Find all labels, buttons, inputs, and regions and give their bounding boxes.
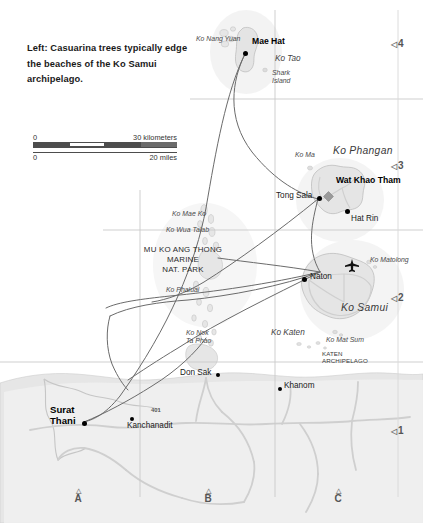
label-ko-ma: Ko Ma [295, 152, 315, 159]
label-ko-mat-sum: Ko Mat Sum [326, 337, 364, 344]
label-ko-nang-yuan: Ko Nang Yuan [196, 36, 240, 43]
label-ko-phangan: Ko Phangan [333, 146, 393, 156]
grid-ref-row-2: ◁2 [391, 292, 404, 303]
marker-naton[interactable] [302, 277, 307, 282]
island-shark-island [263, 68, 268, 72]
label-naton: Naton [310, 273, 332, 281]
label-shark-island-line1: Shark [272, 70, 290, 77]
grid-ref-row-1-label: 1 [398, 425, 404, 436]
label-kanchanadit: Kanchanadit [127, 422, 173, 430]
label-marine-park-line2: MARINE [139, 255, 227, 265]
scale-mi-zero: 0 [33, 153, 37, 162]
grid-ref-col-b: △B [201, 488, 215, 504]
island-ko-ma [307, 166, 312, 170]
label-ko-wua-talab: Ko Wua Talab [166, 227, 209, 234]
label-shark-island-line2: Island [272, 78, 290, 85]
grid-ref-row-1: ◁1 [391, 425, 404, 436]
grid-triangle-icon: ◁ [391, 162, 397, 171]
label-katen-archipelago-line2: ARCHIPELAGO [322, 357, 368, 364]
marker-surat-thani[interactable] [82, 421, 87, 426]
label-marine-park-line1: MU KO ANG THONG [139, 245, 227, 255]
marker-tong-sala[interactable] [317, 196, 322, 201]
grid-triangle-icon: ◁ [391, 427, 397, 436]
label-ko-mae-ko: Ko Mae Ko [172, 211, 206, 218]
label-ko-phaluai: Ko Phaluai [166, 287, 199, 294]
label-marine-park-line3: NAT. PARK [139, 265, 227, 275]
grid-triangle-icon: ◁ [391, 40, 397, 49]
grid-ref-col-c: △C [331, 488, 345, 504]
label-ko-matolong: Ko Matolong [370, 257, 409, 264]
scale-mi-max: 20 miles [149, 153, 177, 162]
label-ko-nok-line2: Ta Phao [186, 338, 211, 345]
label-wat-khao-tham: Wat Khao Tham [336, 176, 401, 185]
grid-ref-row-3-label: 3 [398, 160, 404, 171]
label-ko-samui: Ko Samui [341, 303, 388, 313]
scale-km-max: 30 kilometers [133, 133, 177, 142]
label-surat-thani-line2: Thani [50, 416, 76, 426]
grid-ref-row-4-label: 4 [398, 38, 404, 49]
grid-ref-col-b-label: B [204, 493, 211, 504]
marker-khanom[interactable] [278, 387, 282, 391]
label-ko-nok-line1: Ko Nok [186, 330, 209, 337]
label-mae-hat: Mae Hat [252, 37, 285, 46]
marker-don-sak[interactable] [216, 373, 220, 377]
map-caption: Left: Casuarina trees typically edge the… [27, 41, 197, 88]
grid-ref-col-a-label: A [74, 493, 81, 504]
label-ko-tao: Ko Tao [275, 55, 301, 63]
map-canvas: Left: Casuarina trees typically edge the… [0, 0, 423, 523]
label-don-sak: Don Sak [180, 369, 211, 377]
marker-mae-hat[interactable] [243, 51, 248, 56]
label-surat-thani-line1: Surat [50, 405, 75, 415]
grid-ref-row-2-label: 2 [398, 292, 404, 303]
grid-ref-row-4: ◁4 [391, 38, 404, 49]
scale-bar: 0 30 kilometers 0 20 miles [33, 134, 177, 168]
marker-hat-rin[interactable] [345, 209, 350, 214]
label-ko-katen: Ko Katen [271, 329, 305, 337]
grid-ref-col-a: △A [71, 488, 85, 504]
label-tong-sala: Tong Sala [276, 192, 312, 200]
grid-ref-row-3: ◁3 [391, 160, 404, 171]
label-route-401: 401 [151, 408, 161, 414]
label-hat-rin: Hat Rin [351, 215, 378, 223]
grid-ref-col-c-label: C [334, 493, 341, 504]
scale-bar-mid-rule [33, 147, 177, 148]
label-khanom: Khanom [284, 382, 315, 390]
scale-km-zero: 0 [33, 133, 37, 142]
grid-triangle-icon: ◁ [391, 294, 397, 303]
